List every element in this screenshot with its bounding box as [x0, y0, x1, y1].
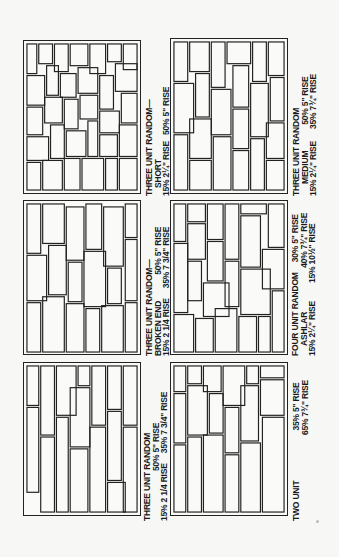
rise-line: 15% 2 1/4 RISE: [160, 463, 169, 521]
label-three-unit-random-broken-end: THREE UNIT RANDOM— BROKEN END50% 5" RISE…: [145, 227, 171, 356]
stone-pattern-two-unit: [171, 363, 287, 515]
pattern-title: TWO UNIT: [292, 481, 301, 521]
rise-line: 35% 7 3/4" RISE: [160, 392, 169, 458]
rise-line: 15% 2¼" RISE: [308, 301, 317, 356]
label-two-unit: TWO UNIT35% 5" RISE 65% 7¾" RISE: [292, 380, 309, 521]
pattern-panel-three-unit-random-medium: [170, 38, 288, 194]
rise-line: 15% 2¼" RISE: [309, 141, 318, 196]
rise-line: 15% 10½" RISE: [308, 223, 317, 295]
pattern-panel-three-unit-random: [23, 362, 141, 516]
pattern-panel-two-unit: [170, 362, 288, 516]
rise-line: 65% 7¾" RISE: [301, 380, 310, 435]
label-three-unit-random: THREE UNIT RANDOM 50% 5" RISE 15% 2 1/4 …: [143, 392, 169, 521]
label-four-unit-random-ashlar: FOUR UNIT RANDOM30% 5" RISE ASHLAR40% 7¾…: [291, 213, 317, 356]
pattern-panel-four-unit-random-ashlar: [170, 200, 288, 355]
rise-line: 35% 7¾" RISE: [309, 74, 318, 135]
stone-pattern-short: [24, 41, 140, 193]
pattern-panel-three-unit-random-short: [23, 40, 141, 194]
stone-pattern-broken-end: [24, 201, 140, 354]
stone-pattern-three-unit: [24, 363, 140, 515]
label-three-unit-random-medium: THREE UNIT RANDOM MEDIUM50% 5" RISE 15% …: [292, 74, 318, 196]
pattern-panel-three-unit-random-broken-end: [23, 200, 141, 355]
stone-pattern-medium: [171, 39, 287, 193]
scan-speck: [316, 520, 319, 523]
stone-pattern-ashlar: [171, 201, 287, 354]
